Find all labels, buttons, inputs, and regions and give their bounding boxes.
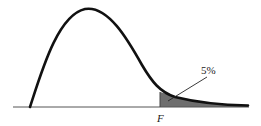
leader-line — [168, 77, 207, 101]
density-curve — [30, 9, 248, 107]
tail-percent-label: 5% — [201, 64, 216, 76]
f-distribution-chart: 5% F — [0, 0, 261, 126]
critical-value-label: F — [156, 112, 164, 124]
